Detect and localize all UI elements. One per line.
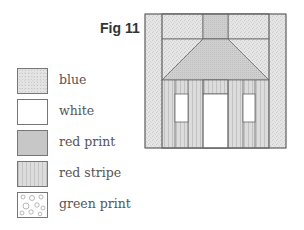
chimney	[203, 14, 228, 39]
right-window	[243, 94, 255, 122]
house-quilt-block	[0, 0, 304, 230]
left-window	[175, 94, 188, 122]
door	[203, 94, 228, 148]
